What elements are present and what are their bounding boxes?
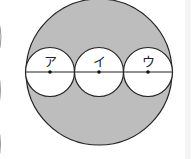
label-a: ア — [44, 54, 57, 69]
label-u: ウ — [142, 54, 155, 69]
choice-bracket-3 — [0, 128, 1, 159]
center-point-a — [48, 70, 52, 74]
label-i: イ — [93, 54, 106, 69]
choice-bracket-2 — [0, 74, 1, 106]
choice-bracket-1 — [0, 20, 1, 54]
circle-diagram: ア イ ウ — [0, 0, 191, 159]
center-point-i — [97, 70, 101, 74]
center-point-u — [146, 70, 150, 74]
